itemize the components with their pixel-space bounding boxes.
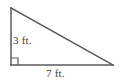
right-angle-marker xyxy=(11,58,18,65)
vertical-leg-label: 3 ft. xyxy=(13,34,32,46)
right-triangle-figure: 3 ft. 7 ft. xyxy=(0,0,120,84)
horizontal-leg-label: 7 ft. xyxy=(46,67,65,79)
